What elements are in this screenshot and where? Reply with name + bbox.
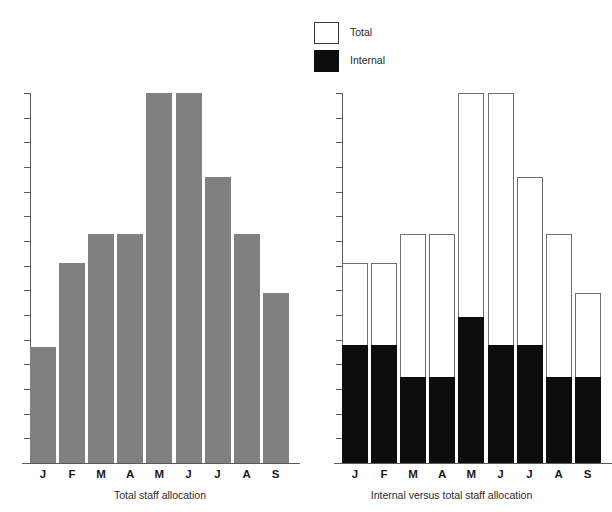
bar-internal bbox=[517, 345, 543, 463]
x-axis-label-0: J bbox=[30, 468, 56, 480]
bar-series-total bbox=[30, 93, 292, 463]
bar-slot bbox=[342, 93, 368, 463]
bar-slot bbox=[59, 93, 85, 463]
x-axis-label-2: M bbox=[88, 468, 114, 480]
bar-internal bbox=[546, 377, 572, 463]
bar-slot bbox=[205, 93, 231, 463]
y-axis-tick bbox=[24, 463, 31, 464]
x-axis-label-4: M bbox=[458, 468, 484, 480]
x-axis-title: Internal versus total staff allocation bbox=[300, 489, 593, 501]
bar-series-internal-vs-total bbox=[342, 93, 604, 463]
bar-total bbox=[263, 293, 289, 463]
bar-internal bbox=[400, 377, 426, 463]
plot-area-internal-vs-total bbox=[342, 93, 604, 463]
legend-entry-total: Total bbox=[314, 22, 474, 50]
legend-entry-internal: Internal bbox=[314, 50, 474, 78]
x-axis-label-2: M bbox=[400, 468, 426, 480]
bar-slot bbox=[146, 93, 172, 463]
bar-slot bbox=[400, 93, 426, 463]
bar-internal bbox=[371, 345, 397, 463]
bar-total bbox=[30, 347, 56, 463]
x-axis-label-8: S bbox=[575, 468, 601, 480]
x-axis-label-1: F bbox=[59, 468, 85, 480]
x-axis-label-0: J bbox=[342, 468, 368, 480]
bar-slot bbox=[429, 93, 455, 463]
x-axis-label-4: M bbox=[146, 468, 172, 480]
bar-slot bbox=[371, 93, 397, 463]
x-axis-label-1: F bbox=[371, 468, 397, 480]
bar-slot bbox=[234, 93, 260, 463]
x-axis-label-5: J bbox=[176, 468, 202, 480]
bar-slot bbox=[458, 93, 484, 463]
plot-area-total bbox=[30, 93, 292, 463]
x-axis-title: Total staff allocation bbox=[0, 489, 300, 501]
chart-panel-total: JFMAMJJAS Total staff allocation bbox=[0, 0, 300, 512]
bar-slot bbox=[546, 93, 572, 463]
bar-slot bbox=[30, 93, 56, 463]
bar-slot bbox=[88, 93, 114, 463]
bar-slot bbox=[488, 93, 514, 463]
x-axis-label-8: S bbox=[263, 468, 289, 480]
bar-internal bbox=[575, 377, 601, 463]
legend-label-internal: Internal bbox=[350, 54, 385, 66]
bar-slot bbox=[575, 93, 601, 463]
x-axis-label-7: A bbox=[546, 468, 572, 480]
x-axis-category-labels: JFMAMJJAS bbox=[342, 468, 604, 488]
x-axis-line bbox=[22, 463, 300, 464]
y-axis-tick bbox=[336, 463, 343, 464]
bar-total bbox=[146, 93, 172, 463]
bar-total bbox=[234, 234, 260, 463]
bar-slot bbox=[517, 93, 543, 463]
bar-slot bbox=[117, 93, 143, 463]
chart-legend: Total Internal bbox=[314, 22, 474, 78]
bar-slot bbox=[263, 93, 289, 463]
bar-total bbox=[59, 263, 85, 463]
x-axis-label-3: A bbox=[429, 468, 455, 480]
legend-swatch-total-icon bbox=[314, 22, 339, 44]
x-axis-category-labels: JFMAMJJAS bbox=[30, 468, 292, 488]
bar-total bbox=[117, 234, 143, 463]
bar-total bbox=[88, 234, 114, 463]
bar-total bbox=[205, 177, 231, 463]
legend-swatch-internal-icon bbox=[314, 50, 339, 72]
bar-internal bbox=[458, 317, 484, 463]
x-axis-label-3: A bbox=[117, 468, 143, 480]
legend-label-total: Total bbox=[350, 26, 372, 38]
bar-internal bbox=[488, 345, 514, 463]
x-axis-label-5: J bbox=[488, 468, 514, 480]
x-axis-label-6: J bbox=[517, 468, 543, 480]
x-axis-line bbox=[334, 463, 612, 464]
bar-slot bbox=[176, 93, 202, 463]
bar-internal bbox=[342, 345, 368, 463]
bar-internal bbox=[429, 377, 455, 463]
x-axis-label-6: J bbox=[205, 468, 231, 480]
x-axis-label-7: A bbox=[234, 468, 260, 480]
bar-total bbox=[176, 93, 202, 463]
